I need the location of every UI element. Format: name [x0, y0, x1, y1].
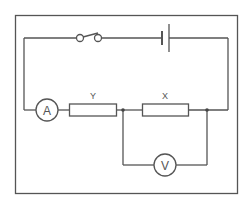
circuit-diagram: A V Y X: [0, 0, 245, 197]
junction-dot: [121, 108, 125, 112]
voltmeter-label: V: [161, 159, 169, 173]
resistor-y-label: Y: [90, 91, 96, 101]
resistor-x-label: X: [162, 91, 168, 101]
ammeter-label: A: [43, 104, 51, 118]
battery-symbol: [162, 24, 169, 52]
resistor-y: [70, 104, 117, 116]
resistor-x: [143, 104, 189, 116]
switch-symbol: [77, 33, 102, 42]
junction-dot: [205, 108, 209, 112]
